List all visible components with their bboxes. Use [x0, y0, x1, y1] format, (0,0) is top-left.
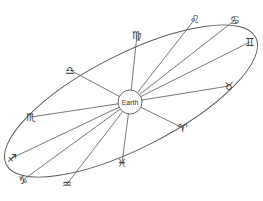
ray-aries — [141, 107, 183, 128]
aquarius-icon: ♒ — [62, 178, 72, 191]
ray-leo — [137, 19, 195, 93]
scorpio-icon: ♏ — [26, 111, 36, 124]
ray-virgo — [131, 35, 137, 90]
virgo-icon: ♍ — [132, 29, 142, 42]
sagittarius-icon: ♐ — [7, 152, 17, 165]
ray-aquarius — [67, 112, 123, 185]
ray-capricorn — [23, 109, 120, 180]
aries-icon: ♈ — [178, 122, 188, 135]
gemini-icon: ♊ — [245, 36, 255, 49]
ray-libra — [70, 70, 119, 96]
ray-cancer — [140, 20, 236, 95]
zodiac-orbit-diagram: Earth ♌♋♊♉♈♓♒♑♐♏♎♍ — [0, 0, 263, 201]
earth-label: Earth — [122, 99, 139, 106]
earth: Earth — [118, 90, 142, 114]
cancer-icon: ♋ — [230, 14, 240, 27]
leo-icon: ♌ — [190, 13, 200, 26]
taurus-icon: ♉ — [224, 80, 234, 93]
libra-icon: ♎ — [65, 64, 75, 77]
ray-taurus — [142, 86, 229, 100]
pisces-icon: ♓ — [117, 157, 127, 170]
ray-scorpio — [31, 104, 118, 117]
capricorn-icon: ♑ — [18, 174, 28, 187]
